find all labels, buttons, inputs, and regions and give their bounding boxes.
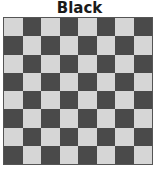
board-square[interactable] [115,109,134,127]
board-square[interactable] [134,36,153,54]
board-square[interactable] [97,73,116,91]
board-square[interactable] [134,146,153,164]
board-square[interactable] [4,55,23,73]
board-square[interactable] [97,128,116,146]
chessboard[interactable] [3,17,153,165]
board-square[interactable] [4,18,23,36]
board-square[interactable] [23,18,42,36]
board-square[interactable] [134,18,153,36]
board-square[interactable] [60,146,79,164]
board-square[interactable] [23,73,42,91]
board-square[interactable] [60,36,79,54]
board-square[interactable] [60,73,79,91]
board-square[interactable] [4,109,23,127]
board-square[interactable] [78,73,97,91]
board-square[interactable] [97,146,116,164]
board-square[interactable] [23,146,42,164]
board-square[interactable] [60,109,79,127]
board-square[interactable] [115,146,134,164]
board-square[interactable] [97,18,116,36]
board-square[interactable] [23,91,42,109]
board-square[interactable] [78,109,97,127]
board-square[interactable] [23,36,42,54]
board-square[interactable] [134,109,153,127]
board-square[interactable] [134,91,153,109]
board-square[interactable] [41,128,60,146]
board-square[interactable] [115,91,134,109]
board-square[interactable] [41,109,60,127]
board-square[interactable] [78,36,97,54]
board-square[interactable] [115,73,134,91]
board-square[interactable] [41,91,60,109]
board-square[interactable] [78,18,97,36]
board-square[interactable] [78,128,97,146]
board-square[interactable] [4,73,23,91]
board-square[interactable] [134,73,153,91]
board-square[interactable] [97,91,116,109]
board-square[interactable] [97,36,116,54]
board-square[interactable] [4,146,23,164]
board-square[interactable] [4,36,23,54]
board-square[interactable] [97,55,116,73]
board-square[interactable] [115,18,134,36]
board-square[interactable] [134,55,153,73]
board-square[interactable] [60,91,79,109]
board-square[interactable] [4,91,23,109]
board-square[interactable] [41,73,60,91]
board-square[interactable] [23,128,42,146]
board-square[interactable] [78,146,97,164]
board-square[interactable] [23,55,42,73]
board-square[interactable] [78,91,97,109]
board-square[interactable] [41,146,60,164]
board-square[interactable] [23,109,42,127]
board-square[interactable] [60,128,79,146]
board-square[interactable] [115,128,134,146]
board-square[interactable] [115,55,134,73]
board-square[interactable] [97,109,116,127]
board-square[interactable] [41,55,60,73]
board-square[interactable] [134,128,153,146]
board-square[interactable] [115,36,134,54]
board-square[interactable] [41,36,60,54]
board-square[interactable] [4,128,23,146]
board-orientation-label: Black [0,0,159,17]
board-square[interactable] [41,18,60,36]
board-square[interactable] [78,55,97,73]
board-square[interactable] [60,18,79,36]
board-square[interactable] [60,55,79,73]
